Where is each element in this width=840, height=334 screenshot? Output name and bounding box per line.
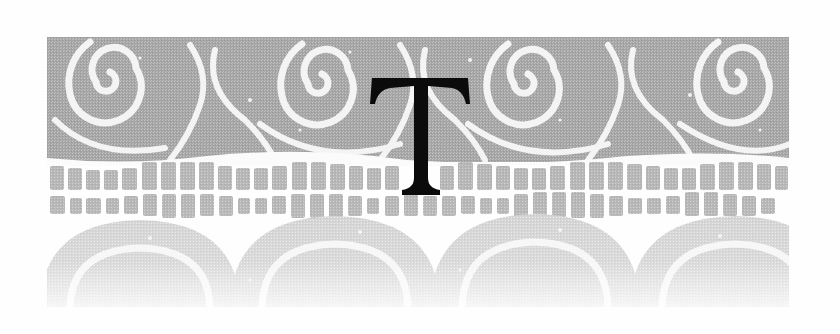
drop-cap-ornament: T [0,0,840,334]
drop-cap-letter: T [366,50,474,210]
